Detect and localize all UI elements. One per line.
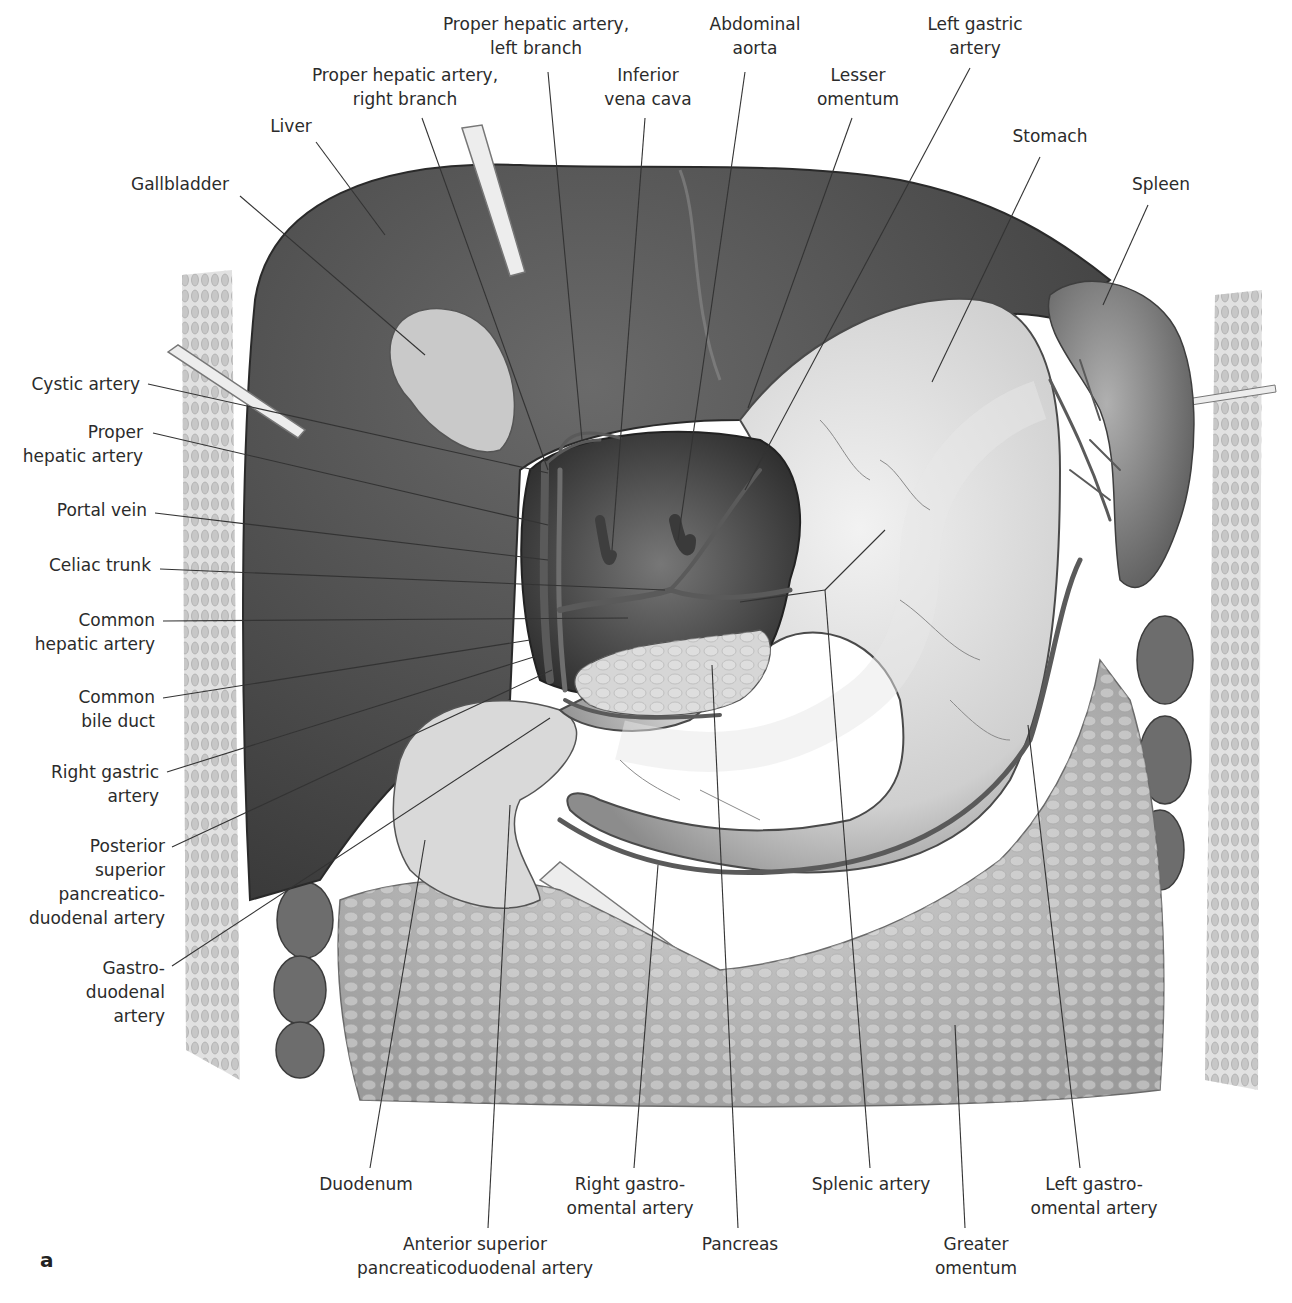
label-anterior-superior-pancreaticoduodenal-artery: Anterior superior pancreaticoduodenal ar… bbox=[357, 1232, 593, 1280]
label-line: aorta bbox=[710, 36, 801, 60]
label-proper-hepatic-artery-right-branch: Proper hepatic artery, right branch bbox=[312, 63, 498, 111]
label-line: Liver bbox=[270, 114, 312, 138]
label-line: Right gastric bbox=[51, 760, 159, 784]
label-line: hepatic artery bbox=[35, 632, 155, 656]
label-line: Right gastro- bbox=[567, 1172, 694, 1196]
label-lesser-omentum: Lesser omentum bbox=[817, 63, 899, 111]
label-line: pancreatico- bbox=[29, 882, 165, 906]
label-spleen: Spleen bbox=[1132, 172, 1190, 196]
label-celiac-trunk: Celiac trunk bbox=[49, 553, 151, 577]
label-line: omental artery bbox=[567, 1196, 694, 1220]
label-line: right branch bbox=[312, 87, 498, 111]
label-line: Proper hepatic artery, bbox=[443, 12, 629, 36]
label-duodenum: Duodenum bbox=[319, 1172, 413, 1196]
label-gallbladder: Gallbladder bbox=[131, 172, 229, 196]
label-greater-omentum: Greater omentum bbox=[935, 1232, 1017, 1280]
label-abdominal-aorta: Abdominal aorta bbox=[710, 12, 801, 60]
label-line: artery bbox=[86, 1004, 165, 1028]
figure-panel-letter: a bbox=[40, 1248, 54, 1272]
abdominal-wall-right bbox=[1205, 290, 1262, 1090]
label-line: bile duct bbox=[78, 709, 155, 733]
label-line: Left gastric bbox=[927, 12, 1022, 36]
label-pancreas: Pancreas bbox=[702, 1232, 778, 1256]
label-line: Splenic artery bbox=[812, 1172, 931, 1196]
label-common-bile-duct: Common bile duct bbox=[78, 685, 155, 733]
label-line: Proper bbox=[23, 420, 143, 444]
label-line: left branch bbox=[443, 36, 629, 60]
label-posterior-superior-pancreaticoduodenal-artery: Posterior superior pancreatico- duodenal… bbox=[29, 834, 165, 930]
label-line: Gallbladder bbox=[131, 172, 229, 196]
label-line: omentum bbox=[935, 1256, 1017, 1280]
label-cystic-artery: Cystic artery bbox=[31, 372, 140, 396]
label-liver: Liver bbox=[270, 114, 312, 138]
label-stomach: Stomach bbox=[1013, 124, 1088, 148]
label-line: Duodenum bbox=[319, 1172, 413, 1196]
label-line: Gastro- bbox=[86, 956, 165, 980]
label-proper-hepatic-artery: Proper hepatic artery bbox=[23, 420, 143, 468]
anatomy-figure: Proper hepatic artery, left branch Abdom… bbox=[0, 0, 1292, 1303]
label-line: Posterior bbox=[29, 834, 165, 858]
label-line: Portal vein bbox=[57, 498, 147, 522]
label-line: pancreaticoduodenal artery bbox=[357, 1256, 593, 1280]
label-proper-hepatic-artery-left-branch: Proper hepatic artery, left branch bbox=[443, 12, 629, 60]
label-line: Stomach bbox=[1013, 124, 1088, 148]
label-line: Spleen bbox=[1132, 172, 1190, 196]
label-line: Left gastro- bbox=[1031, 1172, 1158, 1196]
label-line: duodenal artery bbox=[29, 906, 165, 930]
label-line: Inferior bbox=[604, 63, 691, 87]
label-portal-vein: Portal vein bbox=[57, 498, 147, 522]
label-line: Anterior superior bbox=[357, 1232, 593, 1256]
label-line: Abdominal bbox=[710, 12, 801, 36]
label-left-gastric-artery: Left gastric artery bbox=[927, 12, 1022, 60]
label-line: superior bbox=[29, 858, 165, 882]
label-splenic-artery: Splenic artery bbox=[812, 1172, 931, 1196]
label-line: duodenal bbox=[86, 980, 165, 1004]
label-line: artery bbox=[927, 36, 1022, 60]
label-line: Cystic artery bbox=[31, 372, 140, 396]
label-line: Common bbox=[35, 608, 155, 632]
label-line: Proper hepatic artery, bbox=[312, 63, 498, 87]
label-line: artery bbox=[51, 784, 159, 808]
label-line: Celiac trunk bbox=[49, 553, 151, 577]
label-line: hepatic artery bbox=[23, 444, 143, 468]
label-right-gastric-artery: Right gastric artery bbox=[51, 760, 159, 808]
label-line: Common bbox=[78, 685, 155, 709]
spleen-shape bbox=[1048, 281, 1194, 587]
label-inferior-vena-cava: Inferior vena cava bbox=[604, 63, 691, 111]
label-line: Lesser bbox=[817, 63, 899, 87]
label-line: omental artery bbox=[1031, 1196, 1158, 1220]
label-line: Pancreas bbox=[702, 1232, 778, 1256]
label-line: vena cava bbox=[604, 87, 691, 111]
label-left-gastro-omental-artery: Left gastro- omental artery bbox=[1031, 1172, 1158, 1220]
label-line: Greater bbox=[935, 1232, 1017, 1256]
label-line: omentum bbox=[817, 87, 899, 111]
label-gastroduodenal-artery: Gastro- duodenal artery bbox=[86, 956, 165, 1028]
label-right-gastro-omental-artery: Right gastro- omental artery bbox=[567, 1172, 694, 1220]
label-common-hepatic-artery: Common hepatic artery bbox=[35, 608, 155, 656]
